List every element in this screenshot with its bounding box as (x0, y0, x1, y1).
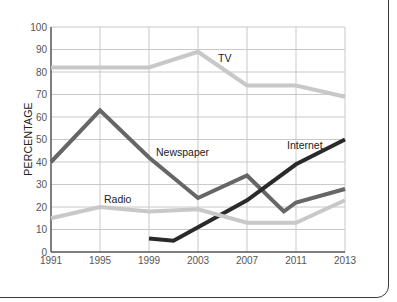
label-tv: TV (218, 52, 231, 64)
x-tick-label: 1999 (138, 255, 161, 266)
y-tick-label: 90 (36, 44, 48, 55)
y-tick-label: 70 (36, 89, 48, 100)
x-tick-label: 2013 (334, 255, 357, 266)
y-axis-label: PERCENTAGE (22, 102, 34, 176)
y-tick-label: 20 (36, 202, 48, 213)
x-tick-label: 2003 (187, 255, 210, 266)
label-internet: Internet (287, 139, 323, 151)
y-tick-label: 50 (36, 134, 48, 145)
y-tick-label: 30 (36, 179, 48, 190)
line-chart: 0102030405060708090100 19911995199920032… (0, 0, 397, 302)
label-newspaper: Newspaper (156, 146, 210, 158)
y-tick-label: 60 (36, 112, 48, 123)
x-axis-ticks: 1991199519992003200720112013 (40, 255, 357, 266)
x-tick-label: 2011 (285, 255, 307, 266)
y-tick-label: 100 (30, 22, 47, 33)
x-tick-label: 1995 (89, 255, 112, 266)
x-tick-label: 2007 (236, 255, 259, 266)
y-tick-label: 40 (36, 157, 48, 168)
x-tick-label: 1991 (40, 255, 63, 266)
y-tick-label: 80 (36, 67, 48, 78)
y-tick-label: 10 (36, 224, 48, 235)
label-radio: Radio (104, 193, 132, 205)
